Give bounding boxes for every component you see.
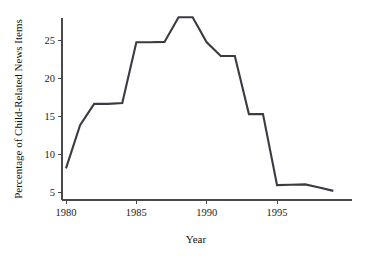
y-axis-title: Percentage of Child-Related News Items [12, 19, 24, 199]
x-tick-label: 1980 [56, 207, 77, 218]
x-tick-label: 1990 [196, 207, 217, 218]
chart-figure: 1980198519901995 510152025 Year Percenta… [0, 0, 366, 258]
x-tick-label: 1985 [126, 207, 147, 218]
chart-axes [62, 18, 352, 200]
x-axis-title: Year [186, 233, 207, 245]
line-chart: 1980198519901995 510152025 Year Percenta… [0, 0, 366, 258]
y-tick-labels: 510152025 [45, 35, 56, 198]
y-tick-label: 15 [45, 111, 56, 122]
y-tick-label: 5 [50, 187, 55, 198]
x-tick-labels: 1980198519901995 [56, 207, 288, 218]
chart-tick-marks [58, 40, 277, 204]
x-tick-label: 1995 [267, 207, 288, 218]
y-tick-label: 20 [45, 73, 56, 84]
y-tick-label: 10 [45, 149, 56, 160]
y-tick-label: 25 [45, 35, 56, 46]
data-line-percentage-child-related-news-items [66, 17, 333, 191]
chart-series [66, 17, 333, 191]
